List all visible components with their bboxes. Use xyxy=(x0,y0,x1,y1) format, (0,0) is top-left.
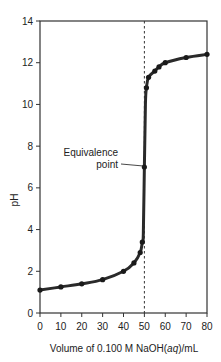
data-point-marker xyxy=(152,68,157,73)
data-point-marker xyxy=(184,55,189,60)
annotation-line-1: Equivalence xyxy=(64,147,119,158)
titration-curve xyxy=(37,52,209,293)
y-tick-label: 12 xyxy=(22,57,34,68)
x-tick-label: 30 xyxy=(97,321,109,332)
equivalence-point-annotation: Equivalencepoint xyxy=(64,147,144,170)
data-point-marker xyxy=(79,281,84,286)
x-tick-label: 50 xyxy=(139,321,151,332)
data-point-marker xyxy=(204,52,209,57)
y-tick-label: 0 xyxy=(27,308,33,319)
x-tick-label: 20 xyxy=(76,321,88,332)
data-point-marker xyxy=(146,75,151,80)
y-axis-label: pH xyxy=(9,194,20,207)
x-tick-label: 10 xyxy=(55,321,67,332)
y-tick-label: 8 xyxy=(27,141,33,152)
data-point-marker xyxy=(131,260,136,265)
curve-line xyxy=(40,54,207,290)
x-tick-label: 0 xyxy=(37,321,43,332)
annotation-line-2: point xyxy=(96,159,118,170)
y-tick-label: 14 xyxy=(22,16,34,27)
x-tick-label: 80 xyxy=(201,321,213,332)
data-point-marker xyxy=(142,164,147,169)
annotation-leader-line xyxy=(121,164,143,166)
y-tick-label: 6 xyxy=(27,182,33,193)
data-point-marker xyxy=(58,284,63,289)
x-tick-label: 60 xyxy=(160,321,172,332)
y-tick-label: 2 xyxy=(27,266,33,277)
data-point-marker xyxy=(121,269,126,274)
data-point-marker xyxy=(100,277,105,282)
y-axis-ticks: 02468101214 xyxy=(22,16,40,319)
y-tick-label: 4 xyxy=(27,224,33,235)
x-axis-label: Volume of 0.100 M NaOH(aq)/mL xyxy=(50,343,199,354)
data-point-marker xyxy=(144,85,149,90)
x-tick-label: 40 xyxy=(118,321,130,332)
data-point-marker xyxy=(156,64,161,69)
data-point-marker xyxy=(37,287,42,292)
x-axis-ticks: 01020304050607080 xyxy=(37,313,213,332)
x-tick-label: 70 xyxy=(181,321,193,332)
y-tick-label: 10 xyxy=(22,99,34,110)
titration-chart: 02468101214 01020304050607080 Equivalenc… xyxy=(0,0,221,362)
data-point-marker xyxy=(138,250,143,255)
data-point-marker xyxy=(140,239,145,244)
data-point-marker xyxy=(163,60,168,65)
